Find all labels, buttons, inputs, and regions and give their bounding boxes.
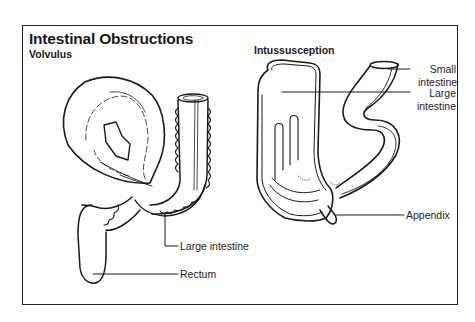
label-rectum: Rectum [180, 268, 216, 281]
label-small-intestine-line1: Small [418, 63, 456, 76]
label-large-intestine-line1: Large [412, 87, 456, 100]
intussusception-illustration [257, 60, 410, 224]
label-large-intestine-intussusception: Large intestine [412, 87, 456, 112]
label-small-intestine: Small intestine [418, 63, 456, 88]
label-large-intestine-line2: intestine [412, 100, 456, 113]
label-appendix: Appendix [406, 209, 450, 222]
intestine-illustrations [0, 0, 475, 322]
label-large-intestine-volvulus: Large intestine [180, 240, 249, 253]
